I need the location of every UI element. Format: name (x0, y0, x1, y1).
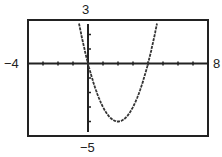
plot-frame (28, 20, 208, 136)
graph-window (0, 0, 222, 157)
